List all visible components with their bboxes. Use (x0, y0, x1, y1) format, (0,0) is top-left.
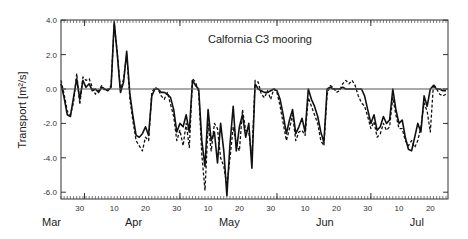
transport-chart: 4.02.00.0-2.0-4.0-6.0 301020301020301020… (0, 0, 468, 239)
y-tick-label: -6.0 (43, 188, 57, 197)
series-dashed (61, 24, 446, 191)
x-tick-label: 10 (301, 204, 310, 213)
x-axis-month-labels: MarAprMayJunJul (42, 216, 424, 228)
plot-lines (61, 22, 446, 196)
x-tick-label: 20 (426, 204, 435, 213)
x-tick-label: 30 (75, 204, 84, 213)
x-tick-label: 10 (395, 204, 404, 213)
y-tick-label: 4.0 (46, 16, 58, 25)
x-tick-label: 30 (172, 204, 181, 213)
x-tick-label: 20 (235, 204, 244, 213)
x-tick-label: 20 (332, 204, 341, 213)
month-label: Apr (125, 216, 142, 228)
y-tick-label: -4.0 (43, 154, 57, 163)
y-tick-label: 0.0 (46, 85, 58, 94)
x-tick-label: 10 (204, 204, 213, 213)
y-tick-label: 2.0 (46, 51, 58, 60)
chart-title: Calfornia C3 mooring (208, 33, 312, 45)
x-axis-day-labels: 301020301020301020301020 (75, 204, 435, 213)
x-tick-label: 30 (363, 204, 372, 213)
x-tick-label: 20 (141, 204, 150, 213)
x-tick-label: 10 (110, 204, 119, 213)
x-tick-label: 30 (266, 204, 275, 213)
series-solid (61, 22, 446, 196)
y-axis-label: Transport [m²/s] (16, 71, 28, 148)
month-label: May (219, 216, 240, 228)
month-label: Mar (42, 216, 61, 228)
y-tick-label: -2.0 (43, 119, 57, 128)
month-label: Jun (316, 216, 334, 228)
month-label: Jul (410, 216, 424, 228)
